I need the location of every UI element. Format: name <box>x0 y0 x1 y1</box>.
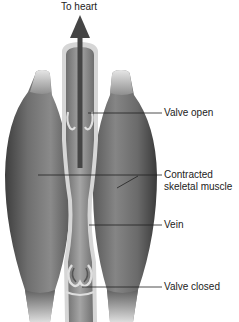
contracted-muscle-label-line1: Contracted <box>164 169 213 181</box>
diagram-artwork <box>0 0 239 322</box>
left-muscle <box>5 70 70 322</box>
valve-open-label: Valve open <box>164 107 213 119</box>
skeletal-muscle-pump-diagram: To heart Valve open Contracted skeletal … <box>0 0 239 322</box>
right-muscle <box>93 70 157 322</box>
valve-closed-label: Valve closed <box>164 281 220 293</box>
vein-label: Vein <box>164 219 183 231</box>
to-heart-label: To heart <box>61 1 97 13</box>
contracted-muscle-label-line2: skeletal muscle <box>164 181 232 193</box>
